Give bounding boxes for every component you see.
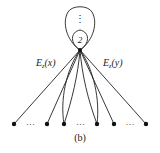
bottom-node-6 (144, 122, 148, 126)
ellipsis-left: … (26, 117, 35, 127)
bottom-node-3 (62, 122, 66, 126)
bottom-node-4 (95, 122, 99, 126)
apex-node (78, 48, 82, 52)
bottom-node-1 (12, 122, 16, 126)
graph-diagram: ⋮ 2 … … … Ez(x) Ez(y) (b) (0, 0, 160, 153)
edge-4b (80, 50, 97, 124)
ellipsis-right: … (126, 117, 135, 127)
ellipsis-middle: … (76, 117, 85, 127)
edge-label-left: Ez(x) (35, 57, 56, 69)
figure-caption: (b) (74, 132, 86, 144)
inner-loop-label: 2 (78, 35, 83, 45)
outer-loop-marker: ⋮ (75, 13, 85, 24)
edge-3a (63, 50, 80, 124)
edge-3b (64, 50, 80, 124)
edge-4a (80, 50, 98, 124)
edge-label-right: Ez(y) (102, 57, 123, 69)
bottom-node-5 (112, 122, 116, 126)
bottom-node-2 (45, 122, 49, 126)
